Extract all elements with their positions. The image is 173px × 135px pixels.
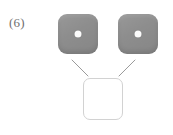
left-die[interactable] [58,14,98,54]
problem-number-label: (6) [9,16,25,29]
die-pip [75,31,82,38]
right-connector-line [119,60,135,76]
answer-box[interactable] [83,78,123,120]
die-pip [135,31,142,38]
left-connector-line [72,60,88,76]
right-die[interactable] [118,14,158,54]
dice-puzzle-figure: (6) [0,0,173,135]
